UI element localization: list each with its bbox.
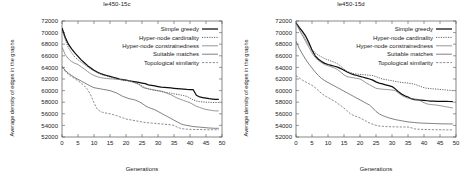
x-tick-label: 50 (219, 140, 226, 146)
x-tick-label: 5 (76, 140, 80, 146)
series-line (62, 66, 219, 128)
x-tick-label: 10 (325, 140, 332, 146)
x-tick-label: 15 (341, 140, 348, 146)
x-tick-label: 25 (139, 140, 146, 146)
x-tick-label: 35 (171, 140, 178, 146)
y-tick-label: 62000 (275, 76, 292, 82)
y-tick-label: 54000 (41, 123, 58, 129)
x-tick-label: 40 (187, 140, 194, 146)
y-tick-label: 68000 (41, 41, 58, 47)
legend-label: Hyper-node constrainedness (122, 43, 199, 49)
y-tick-label: 56000 (41, 111, 58, 117)
series-line (296, 76, 453, 130)
figure-container: le450-15c Average density of edges in th… (0, 0, 468, 175)
x-tick-label: 50 (453, 140, 460, 146)
legend-label: Suitable matches (153, 51, 199, 57)
chart-panel-right: le450-15d Average density of edges in th… (234, 0, 468, 175)
x-tick-label: 35 (405, 140, 412, 146)
y-tick-label: 72000 (41, 18, 58, 24)
y-tick-label: 66000 (275, 53, 292, 59)
y-tick-label: 54000 (275, 123, 292, 129)
x-tick-label: 0 (294, 140, 298, 146)
y-tick-label: 52000 (41, 134, 58, 140)
x-tick-label: 20 (357, 140, 364, 146)
legend-label: Simple greedy (161, 26, 199, 32)
legend-label: Topological similarity (378, 60, 433, 66)
x-tick-label: 45 (437, 140, 444, 146)
x-tick-label: 30 (389, 140, 396, 146)
y-tick-label: 56000 (275, 111, 292, 117)
y-tick-label: 64000 (275, 65, 292, 71)
legend-label: Topological similarity (144, 60, 199, 66)
plot-svg-left: 5200054000560005800060000620006400066000… (0, 0, 234, 175)
x-tick-label: 15 (107, 140, 114, 146)
legend-label: Hyper-node constrainedness (356, 43, 433, 49)
y-tick-label: 66000 (41, 53, 58, 59)
y-tick-label: 68000 (275, 41, 292, 47)
chart-panel-left: le450-15c Average density of edges in th… (0, 0, 234, 175)
x-tick-label: 0 (60, 140, 64, 146)
legend-label: Hyper-node cardinality (373, 35, 433, 41)
series-line (62, 67, 219, 129)
x-tick-label: 45 (203, 140, 210, 146)
y-tick-label: 60000 (275, 88, 292, 94)
x-tick-label: 5 (310, 140, 314, 146)
x-tick-label: 30 (155, 140, 162, 146)
y-tick-label: 70000 (41, 30, 58, 36)
y-tick-label: 60000 (41, 88, 58, 94)
x-tick-label: 10 (91, 140, 98, 146)
y-tick-label: 72000 (275, 18, 292, 24)
x-tick-label: 25 (373, 140, 380, 146)
plot-svg-right: 5200054000560005800060000620006400066000… (234, 0, 468, 175)
legend-label: Hyper-node cardinality (139, 35, 199, 41)
y-tick-label: 62000 (41, 76, 58, 82)
y-tick-label: 52000 (275, 134, 292, 140)
x-tick-label: 20 (123, 140, 130, 146)
legend-label: Suitable matches (387, 51, 433, 57)
x-tick-label: 40 (421, 140, 428, 146)
y-tick-label: 70000 (275, 30, 292, 36)
legend-label: Simple greedy (395, 26, 433, 32)
y-tick-label: 58000 (275, 99, 292, 105)
y-tick-label: 58000 (41, 99, 58, 105)
y-tick-label: 64000 (41, 65, 58, 71)
